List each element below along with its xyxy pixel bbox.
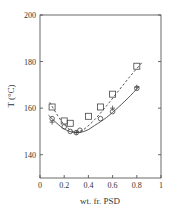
data-points	[49, 63, 140, 135]
x-tick-label: 0.6	[108, 181, 118, 190]
x-tick-label: 0.8	[132, 181, 142, 190]
square-marker	[61, 118, 67, 124]
x-tick-label: 0	[38, 181, 42, 190]
plus-marker	[134, 85, 139, 90]
x-axis: 00.20.40.60.81	[38, 175, 163, 190]
x-axis-label: wt. fr. PSD	[80, 196, 121, 206]
y-axis-label: T (°C)	[6, 84, 16, 107]
y-tick-label: 160	[24, 104, 36, 113]
x-tick-label: 1	[159, 181, 163, 190]
square-marker	[134, 63, 140, 69]
square-marker	[85, 113, 91, 119]
x-tick-label: 0.2	[59, 181, 69, 190]
y-tick-label: 180	[24, 58, 36, 67]
y-tick-label: 200	[24, 11, 36, 20]
y-tick-label: 140	[24, 151, 36, 160]
chart: 140160180200 00.20.40.60.81 wt. fr. PSD …	[0, 0, 172, 209]
square-marker	[98, 104, 104, 110]
fit-lines	[48, 62, 142, 133]
circle-marker	[98, 116, 103, 121]
plot-area	[40, 15, 161, 178]
x-tick-label: 0.4	[83, 181, 93, 190]
square-marker	[67, 120, 73, 126]
y-axis: 140160180200	[24, 11, 161, 160]
